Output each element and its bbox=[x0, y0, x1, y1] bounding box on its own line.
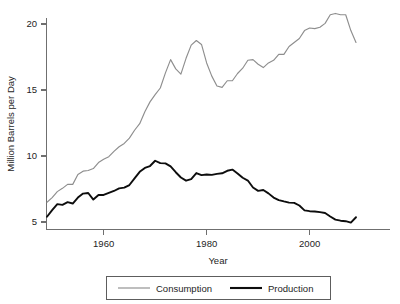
y-tick-label: 20 bbox=[26, 18, 37, 29]
x-axis: 196019802000 bbox=[47, 230, 391, 250]
series-line-production bbox=[47, 161, 356, 223]
legend: Consumption Production bbox=[107, 277, 331, 300]
x-tick-label: 2000 bbox=[299, 238, 320, 249]
plot-series bbox=[47, 13, 356, 222]
x-tick-label: 1980 bbox=[196, 238, 217, 249]
y-axis: 5101520 bbox=[26, 18, 46, 230]
x-tick-group: 196019802000 bbox=[93, 230, 320, 250]
line-chart: 5101520 196019802000 Million Barrels per… bbox=[0, 0, 400, 304]
y-tick-label: 5 bbox=[32, 216, 37, 227]
y-axis-title: Million Barrels per Day bbox=[5, 76, 16, 172]
y-tick-group: 5101520 bbox=[26, 18, 46, 227]
chart-container: 5101520 196019802000 Million Barrels per… bbox=[0, 0, 400, 304]
x-tick-label: 1960 bbox=[93, 238, 114, 249]
legend-label-consumption: Consumption bbox=[156, 283, 212, 294]
legend-label-production: Production bbox=[268, 283, 313, 294]
x-axis-title: Year bbox=[208, 255, 227, 266]
y-tick-label: 10 bbox=[26, 150, 37, 161]
y-tick-label: 15 bbox=[26, 84, 37, 95]
series-line-consumption bbox=[47, 13, 356, 202]
